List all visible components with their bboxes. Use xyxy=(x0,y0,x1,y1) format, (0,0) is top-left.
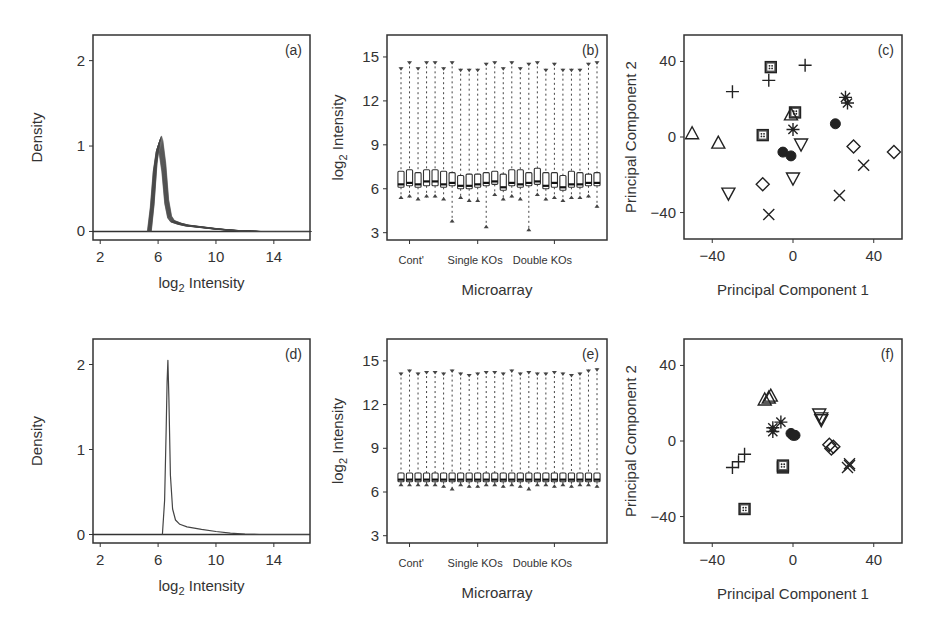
upper-cap xyxy=(586,370,591,374)
upper-cap xyxy=(595,368,600,372)
box xyxy=(509,370,515,487)
box xyxy=(594,61,600,207)
upper-cap xyxy=(399,373,404,377)
lower-cap xyxy=(441,484,446,488)
y-tick-label: 12 xyxy=(362,396,379,413)
x-tick-label: 14 xyxy=(265,551,282,568)
group-label: Cont' xyxy=(399,254,424,266)
upper-cap xyxy=(595,61,600,64)
upper-cap xyxy=(492,371,497,375)
panel-label: (a) xyxy=(285,42,302,58)
diamond-marker xyxy=(847,140,860,153)
upper-cap xyxy=(569,374,574,378)
box xyxy=(458,373,464,487)
lower-cap xyxy=(586,194,591,198)
box xyxy=(543,373,549,487)
lower-cap xyxy=(450,219,455,223)
upper-cap xyxy=(526,63,531,66)
box xyxy=(475,69,481,202)
box xyxy=(415,373,421,487)
lower-cap xyxy=(543,197,548,201)
lower-cap xyxy=(518,197,523,201)
group-label: Single KOs xyxy=(448,254,504,266)
y-tick-label: 0 xyxy=(77,526,85,543)
lower-cap xyxy=(586,483,591,487)
plus-marker xyxy=(726,461,739,474)
box xyxy=(492,61,498,196)
asterisk-marker xyxy=(766,421,779,434)
plus-marker xyxy=(738,448,751,461)
lower-cap xyxy=(484,225,489,229)
asterisk-marker xyxy=(787,123,800,136)
box xyxy=(483,63,489,228)
lower-cap xyxy=(577,483,582,487)
upper-cap xyxy=(509,61,514,64)
axis-title: Principal Component 2 xyxy=(622,365,639,517)
upper-cap xyxy=(407,61,412,64)
y-tick-label: 40 xyxy=(659,52,676,69)
upper-cap xyxy=(501,373,506,377)
panel-label: (d) xyxy=(285,346,302,362)
series-triangle-down xyxy=(813,409,828,427)
box xyxy=(466,374,472,488)
panel-e-boxplot-normalized: (e)3691215Cont'Single KOsDouble KOslog2 … xyxy=(329,339,607,601)
triangle-down-marker xyxy=(787,173,800,185)
box xyxy=(517,373,523,488)
y-tick-label: 15 xyxy=(362,352,379,369)
y-tick-label: 1 xyxy=(77,441,85,458)
box xyxy=(441,67,447,200)
lower-cap xyxy=(492,483,497,487)
panel-c-pca-raw: (c)−40040−40040Principal Component 2Prin… xyxy=(622,35,902,298)
asterisk-marker xyxy=(841,97,854,110)
upper-cap xyxy=(569,69,574,73)
triangle-down-marker xyxy=(722,188,735,200)
lower-cap xyxy=(458,483,463,487)
y-tick-label: 9 xyxy=(371,136,379,153)
box xyxy=(423,371,429,486)
density-curve xyxy=(150,140,311,232)
upper-cap xyxy=(492,61,497,64)
box xyxy=(483,371,489,486)
upper-cap xyxy=(416,373,421,377)
group-label: Single KOs xyxy=(448,557,504,569)
series-cross xyxy=(763,160,869,220)
box xyxy=(551,63,557,199)
lower-cap xyxy=(399,483,404,487)
plot-frame xyxy=(684,339,902,543)
x-tick-label: 10 xyxy=(208,248,225,265)
box xyxy=(415,67,421,200)
panel-b-boxplot-raw: (b)3691215Cont'Single KOsDouble KOslog2 … xyxy=(329,35,607,298)
box xyxy=(432,371,438,486)
box xyxy=(398,373,404,487)
box-iqr xyxy=(432,170,438,186)
lower-cap xyxy=(543,483,548,487)
y-tick-label: 2 xyxy=(77,356,85,373)
x-tick-label: 40 xyxy=(865,247,882,264)
plot-frame xyxy=(93,339,310,543)
plot-frame xyxy=(93,35,310,240)
x-tick-label: 0 xyxy=(789,551,797,568)
axis-title: log2 Intensity xyxy=(329,397,349,484)
lower-cap xyxy=(526,228,531,232)
series-filled-circle xyxy=(778,119,840,161)
upper-cap xyxy=(407,370,412,374)
lower-cap xyxy=(560,198,565,202)
triangle-down-marker xyxy=(795,139,808,151)
series-diamond xyxy=(823,438,840,455)
axis-title: log2 Intensity xyxy=(329,94,349,181)
box xyxy=(466,69,472,202)
series-cross xyxy=(842,458,855,473)
lower-cap xyxy=(475,484,480,488)
upper-cap xyxy=(441,67,446,71)
upper-cap xyxy=(450,370,455,374)
box xyxy=(406,61,412,197)
box xyxy=(534,61,540,196)
box xyxy=(500,67,506,200)
cross-marker xyxy=(858,160,869,171)
filled-circle-marker xyxy=(830,119,840,129)
plot-frame xyxy=(387,35,607,240)
upper-cap xyxy=(543,69,548,73)
lower-cap xyxy=(595,484,600,488)
y-tick-label: −40 xyxy=(651,204,676,221)
upper-cap xyxy=(552,371,557,375)
